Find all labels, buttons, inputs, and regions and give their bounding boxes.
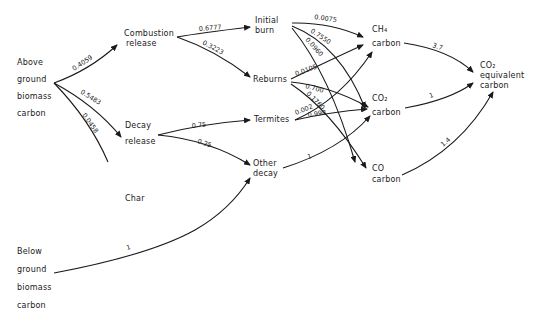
edge-label: 0.25 [196, 137, 212, 149]
node-char: Char [125, 194, 145, 204]
edge-label: 0.5483 [79, 88, 103, 107]
edge-other-co2 [283, 116, 370, 168]
node-other-decay: Other decay [253, 159, 278, 179]
edge-label: 0.0458 [80, 112, 100, 135]
edge-reburns-co2 [291, 82, 368, 107]
edge-initial-co [292, 28, 355, 162]
edge-label: 1 [428, 91, 434, 100]
node-ch4-carbon: CH₄ carbon [372, 23, 401, 51]
edge-label: 0.75 [191, 121, 206, 130]
edge-co-co2eq [402, 92, 493, 175]
node-above-ground-biomass-carbon: Above ground biomass carbon [17, 54, 52, 122]
edge-label: 3.7 [431, 41, 443, 52]
edge-initial-ch4 [292, 23, 363, 37]
node-termites: Termites [254, 115, 289, 125]
edge-below-other [54, 178, 250, 273]
edge-co2-co2eq [405, 83, 473, 108]
edge-label: 0.0075 [314, 13, 338, 24]
node-initial-burn: Initial burn [255, 16, 279, 36]
edge-reburns-co [291, 84, 366, 168]
edge-label: 1 [306, 152, 312, 161]
node-reburns: Reburns [253, 75, 287, 85]
edge-label: 0.998 [307, 108, 327, 119]
node-co2-carbon: CO₂ carbon [372, 92, 401, 120]
node-decay-release: Decay release [125, 118, 156, 150]
edge-label: 1.4 [439, 136, 452, 149]
node-combustion-release: Combustion release [124, 29, 174, 49]
node-co2-equivalent-carbon: CO₂ equivalent carbon [480, 61, 524, 91]
edge-label: 0.0105 [294, 63, 318, 78]
node-co-carbon: CO carbon [372, 163, 401, 185]
node-below-ground-biomass-carbon: Below ground biomass carbon [17, 243, 52, 315]
edge-label: 1 [125, 243, 131, 252]
edge-label: 0.3223 [201, 39, 225, 57]
